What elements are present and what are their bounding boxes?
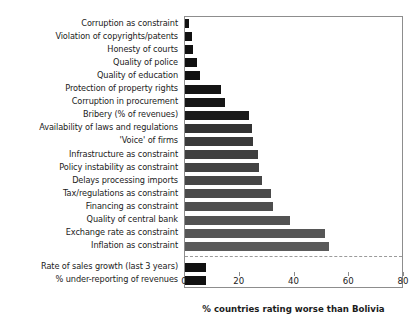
x-tick-label: 40 <box>288 276 299 286</box>
bar <box>185 163 259 172</box>
bar <box>185 137 253 146</box>
category-label: Policy instability as constraint <box>0 163 178 172</box>
category-label: Exchange rate as constraint <box>0 228 178 237</box>
category-label: Financing as constraint <box>0 202 178 211</box>
category-label: Rate of sales growth (last 3 years) <box>0 262 178 271</box>
bar <box>185 202 273 211</box>
bar <box>185 32 192 41</box>
bar <box>185 71 200 80</box>
category-label: Bribery (% of revenues) <box>0 110 178 119</box>
category-label: Infrastructure as constraint <box>0 150 178 159</box>
bar <box>185 276 206 285</box>
category-label: Availability of laws and regulations <box>0 123 178 132</box>
bar <box>185 45 193 54</box>
category-label: Quality of central bank <box>0 215 178 224</box>
bar <box>185 111 249 120</box>
x-tick-label: 0 <box>181 276 186 286</box>
bars-container <box>185 17 402 287</box>
bar <box>185 229 325 238</box>
bar <box>185 124 252 133</box>
category-label: Violation of copyrights/patents <box>0 32 178 41</box>
plot-area <box>184 16 403 288</box>
bar <box>185 58 197 67</box>
x-tick-label: 60 <box>343 276 354 286</box>
category-label: Quality of education <box>0 71 178 80</box>
category-label: % under-reporting of revenues <box>0 275 178 284</box>
x-tick-label: 80 <box>398 276 409 286</box>
x-axis-label: % countries rating worse than Bolivia <box>184 304 403 314</box>
bar <box>185 98 225 107</box>
category-label: Protection of property rights <box>0 84 178 93</box>
category-label: 'Voice' of firms <box>0 136 178 145</box>
bar <box>185 242 329 251</box>
bar <box>185 85 221 94</box>
category-label: Corruption in procurement <box>0 97 178 106</box>
bar <box>185 263 206 272</box>
bar <box>185 150 258 159</box>
bar <box>185 216 290 225</box>
group-divider <box>185 256 402 257</box>
bar <box>185 19 189 28</box>
category-label: Tax/regulations as constraint <box>0 189 178 198</box>
category-label: Corruption as constraint <box>0 19 178 28</box>
bar <box>185 189 271 198</box>
bar-chart: Corruption as constraintViolation of cop… <box>0 0 420 329</box>
category-label: Quality of police <box>0 58 178 67</box>
category-label-column: Corruption as constraintViolation of cop… <box>0 16 182 272</box>
x-tick-label: 20 <box>233 276 244 286</box>
bar <box>185 176 262 185</box>
category-label: Inflation as constraint <box>0 241 178 250</box>
category-label: Honesty of courts <box>0 45 178 54</box>
category-label: Delays processing imports <box>0 176 178 185</box>
